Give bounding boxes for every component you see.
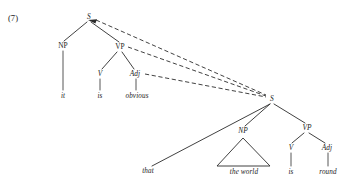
node-label-vp-embedded: VP bbox=[302, 124, 311, 131]
movement-links bbox=[88, 19, 266, 97]
node-label-np-matrix: NP bbox=[58, 42, 68, 49]
node-label-np-embedded: NP bbox=[238, 127, 248, 134]
branch-vp-to-adj-low bbox=[309, 133, 325, 143]
terminal-is: is bbox=[98, 93, 103, 100]
example-number: (7) bbox=[8, 13, 18, 23]
node-label-vp-matrix: VP bbox=[115, 43, 125, 50]
syntax-tree-figure: (7) S NP VP V Adj it is obvious S NP VP … bbox=[0, 0, 350, 187]
tree-canvas bbox=[0, 0, 350, 187]
branch-s-to-vp bbox=[91, 22, 119, 42]
branch-vp-to-v-low bbox=[292, 133, 304, 143]
node-label-adj-matrix: Adj bbox=[130, 70, 141, 77]
terminal-the-world: the world bbox=[230, 169, 258, 176]
node-label-adj-embedded: Adj bbox=[322, 144, 333, 151]
dashed-link-adj-to-s bbox=[145, 74, 266, 97]
dashed-link-vp-to-s bbox=[128, 47, 266, 96]
matrix-clause-branches bbox=[63, 22, 136, 90]
node-label-v-matrix: V bbox=[98, 70, 103, 77]
branch-vp-to-adj bbox=[122, 52, 134, 69]
node-label-v-embedded: V bbox=[289, 144, 294, 151]
terminal-round: round bbox=[319, 169, 336, 176]
branch-vp-to-v bbox=[102, 52, 117, 69]
terminal-it: it bbox=[61, 93, 65, 100]
terminal-that: that bbox=[142, 168, 154, 175]
branch-s-to-vp-low bbox=[274, 104, 305, 123]
node-label-s-embedded: S bbox=[270, 95, 274, 102]
branch-s-to-np bbox=[64, 22, 87, 41]
np-triangle-the-world bbox=[217, 138, 270, 166]
branch-s-to-that bbox=[152, 104, 270, 166]
dashed-link-s-to-s bbox=[96, 20, 266, 95]
terminal-obvious: obvious bbox=[125, 93, 148, 100]
terminal-is-low: is bbox=[289, 169, 294, 176]
node-label-s-matrix: S bbox=[87, 13, 91, 20]
